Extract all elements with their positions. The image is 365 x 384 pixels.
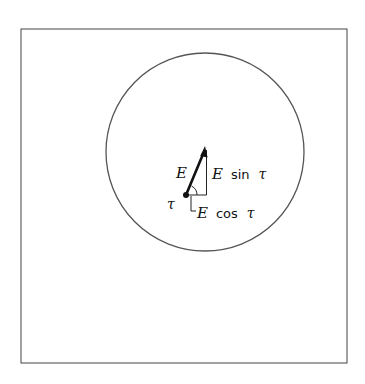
label-E-sin-tau: E sin τ (211, 165, 267, 183)
label-sin-fn: sin (231, 167, 250, 182)
vector-label-E: E (175, 164, 187, 182)
angle-arc (192, 186, 198, 195)
label-cos-angle: τ (247, 205, 255, 221)
label-E-cos-tau: E cos τ (196, 204, 255, 222)
label-sin-var: E (211, 165, 223, 183)
label-cos-var: E (196, 204, 208, 222)
origin-dot (183, 192, 189, 198)
label-cos-fn: cos (216, 206, 238, 221)
cos-label-leader-line (191, 196, 196, 211)
angle-label-tau: τ (167, 196, 175, 212)
vector-component-diagram: E E sin τ E cos τ τ (0, 0, 365, 384)
label-sin-angle: τ (259, 166, 267, 182)
